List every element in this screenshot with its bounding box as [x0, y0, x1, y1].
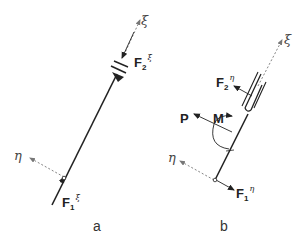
force-base: F	[216, 75, 224, 90]
eta-label-b: η	[168, 151, 176, 164]
rod-a	[52, 74, 117, 205]
force-f2-eta-label: F2η	[216, 76, 233, 89]
force-sup: η	[229, 73, 234, 82]
force-f1-eta-label: F1η	[236, 187, 253, 200]
force-sub: 1	[244, 194, 248, 203]
bearing-bar	[111, 66, 126, 73]
force-sup: ξ	[147, 53, 151, 62]
force-f1-xi-label: F1ξ	[62, 196, 79, 209]
xi-axis-b	[258, 40, 282, 86]
f1-eta-arrow	[216, 180, 234, 190]
bearing-cap	[114, 61, 128, 67]
eta-axis-b	[180, 161, 214, 180]
force-sub: 2	[142, 63, 146, 72]
node-b	[213, 178, 217, 182]
eta-label-a: η	[14, 149, 22, 162]
force-base: F	[62, 195, 70, 210]
xi-axis-a	[124, 20, 140, 55]
sleeve-fork	[245, 74, 262, 111]
xi-label-a: ξ	[141, 14, 148, 27]
f2-xi-arrow	[122, 32, 134, 58]
force-sub: 2	[224, 83, 228, 92]
force-sup: η	[249, 184, 254, 193]
panel-label-b: b	[220, 219, 228, 233]
panel-a-drawing	[30, 20, 140, 205]
force-f2-xi-label: F2ξ	[134, 56, 151, 69]
force-base: F	[236, 186, 244, 201]
eta-axis-a	[30, 158, 64, 177]
moment-m-label: M	[213, 112, 224, 125]
node-a	[62, 176, 66, 180]
xi-label-b: ξ	[284, 33, 291, 46]
moment-tick	[226, 150, 234, 151]
diagram-canvas	[0, 0, 304, 244]
load-p-label: P	[180, 112, 189, 125]
force-base: F	[134, 55, 142, 70]
force-sub: 1	[70, 203, 74, 212]
panel-label-a: a	[93, 219, 101, 233]
panel-b-drawing	[180, 40, 282, 190]
force-sup: ξ	[75, 193, 79, 202]
